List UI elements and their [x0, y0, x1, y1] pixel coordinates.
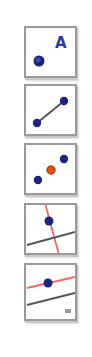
- more-tools-indicator: [65, 309, 71, 313]
- midpoint-endpoint-a: [34, 176, 42, 184]
- segment-icon: [26, 86, 75, 134]
- base-line: [27, 293, 75, 305]
- midpoint-endpoint-b: [60, 155, 68, 163]
- segment-line: [37, 101, 64, 123]
- segment-endpoint-b: [60, 97, 68, 105]
- parallel-line-icon: [26, 265, 75, 319]
- perpendicular-line: [45, 205, 59, 253]
- through-point: [45, 217, 54, 226]
- midpoint-icon: [26, 145, 75, 193]
- base-line: [27, 232, 75, 245]
- perpendicular-line-icon: [26, 205, 75, 253]
- point-label: A: [55, 34, 67, 52]
- point-tool-button[interactable]: A: [24, 26, 77, 78]
- midpoint-dot: [47, 166, 55, 174]
- through-point: [44, 279, 53, 288]
- perpendicular-line-tool-button[interactable]: [24, 203, 77, 255]
- geometry-toolbar: A: [0, 0, 92, 357]
- segment-endpoint-a: [33, 119, 41, 127]
- midpoint-tool-button[interactable]: [24, 143, 77, 195]
- point-with-label-icon: A: [26, 28, 75, 76]
- parallel-line-tool-button[interactable]: [24, 263, 77, 321]
- segment-tool-button[interactable]: [24, 84, 77, 136]
